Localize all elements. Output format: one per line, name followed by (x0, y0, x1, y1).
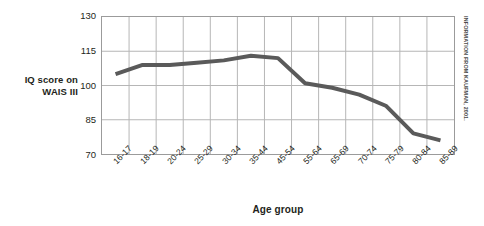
y-tick-label: 115 (68, 46, 96, 56)
source-credit-text: INFORMATION FROM KAUFMAN, 2001. (463, 16, 469, 121)
x-axis-tick-labels: 16-1718-1920-2425-2930-3435-4445-5455-64… (101, 155, 455, 203)
y-tick-label: 130 (68, 11, 96, 21)
iq-by-age-line-chart: IQ score on WAIS III 1301151008570 16-17… (0, 0, 484, 226)
plot-area (101, 16, 455, 155)
x-axis-title: Age group (101, 204, 455, 215)
y-tick-label: 85 (68, 115, 96, 125)
data-line-series (102, 17, 454, 154)
y-tick-label: 100 (68, 81, 96, 91)
y-tick-label: 70 (68, 150, 96, 160)
series-line-iq-score (116, 56, 441, 140)
source-credit: INFORMATION FROM KAUFMAN, 2001. (459, 16, 473, 166)
y-axis-tick-labels: 1301151008570 (66, 0, 96, 226)
